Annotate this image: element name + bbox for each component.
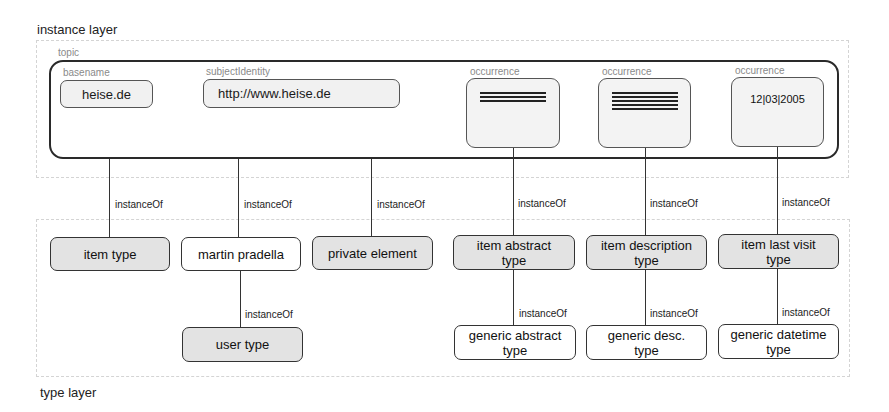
edge-label: instanceOf (518, 198, 566, 209)
basename-box[interactable]: heise.de (60, 80, 153, 108)
edge-label: instanceOf (377, 199, 425, 210)
basename-label: basename (63, 67, 110, 78)
occurrence-3-label: occurrence (735, 65, 784, 76)
text-lines-icon (612, 92, 678, 112)
occurrence-2-label: occurrence (602, 66, 651, 77)
node-label: generic desc. type (597, 328, 697, 358)
node-label: item description type (591, 238, 703, 268)
topic-box[interactable] (49, 60, 839, 159)
instance-layer-label: instance layer (37, 22, 117, 37)
node-generic-datetime-type[interactable]: generic datetime type (718, 324, 839, 359)
occurrence-3-box[interactable]: 12|03|2005 (731, 77, 824, 147)
subject-identity-value: http://www.heise.de (218, 86, 331, 101)
edge-label: instanceOf (650, 198, 698, 209)
node-item-last-visit-type[interactable]: item last visit type (718, 234, 839, 269)
node-private-element[interactable]: private element (312, 236, 433, 270)
node-item-type[interactable]: item type (50, 237, 170, 271)
edge-line (645, 270, 646, 325)
node-label: user type (216, 337, 269, 352)
edge-label: instanceOf (245, 309, 293, 320)
node-user-type[interactable]: user type (182, 327, 303, 362)
node-generic-abstract-type[interactable]: generic abstract type (454, 325, 576, 360)
edge-line (645, 148, 646, 235)
node-martin-pradella[interactable]: martin pradella (181, 237, 301, 271)
edge-label: instanceOf (782, 197, 830, 208)
edge-line (513, 270, 514, 325)
node-label: private element (328, 246, 417, 261)
occurrence-1-label: occurrence (470, 66, 519, 77)
edge-label: instanceOf (519, 308, 567, 319)
node-label: martin pradella (198, 247, 284, 262)
occurrence-2-box[interactable] (598, 78, 691, 148)
topic-label: topic (58, 47, 79, 58)
node-label: generic datetime type (722, 327, 835, 357)
node-label: item type (84, 247, 137, 262)
basename-value: heise.de (82, 87, 131, 102)
edge-line (238, 159, 239, 237)
node-label: item abstract type (469, 238, 559, 268)
edge-line (513, 148, 514, 236)
subject-identity-label: subjectIdentity (206, 66, 270, 77)
text-lines-icon (480, 92, 546, 104)
edge-line (371, 159, 372, 236)
edge-line (240, 271, 241, 327)
edge-line (109, 159, 110, 237)
subject-identity-box[interactable]: http://www.heise.de (203, 79, 400, 108)
occurrence-date-value: 12|03|2005 (732, 93, 823, 105)
node-item-description-type[interactable]: item description type (586, 235, 707, 270)
node-label: item last visit type (734, 237, 824, 267)
node-label: generic abstract type (458, 328, 572, 358)
type-layer-label: type layer (40, 385, 96, 400)
occurrence-1-box[interactable] (466, 78, 560, 148)
node-generic-desc-type[interactable]: generic desc. type (586, 325, 707, 360)
edge-line (777, 147, 778, 234)
edge-label: instanceOf (115, 199, 163, 210)
edge-line (777, 269, 778, 324)
edge-label: instanceOf (782, 307, 830, 318)
node-item-abstract-type[interactable]: item abstract type (453, 235, 575, 270)
edge-label: instanceOf (650, 308, 698, 319)
edge-label: instanceOf (244, 199, 292, 210)
